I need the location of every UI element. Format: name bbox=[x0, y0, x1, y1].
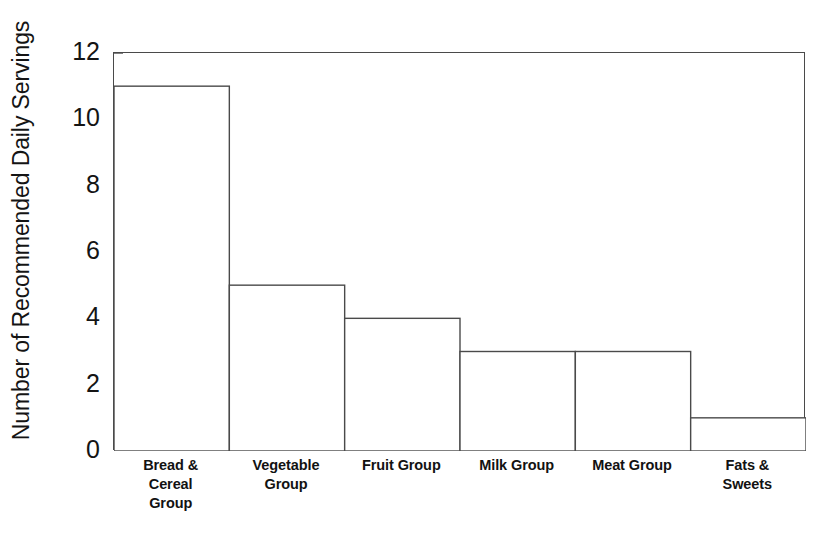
y-axis-title-text: Number of Recommended Daily Servings bbox=[9, 20, 36, 440]
bar bbox=[691, 418, 806, 451]
y-tick-label: 8 bbox=[48, 172, 100, 197]
x-tick-label-line: Cereal bbox=[115, 475, 226, 494]
bar bbox=[345, 318, 460, 451]
x-axis-tick-labels: Bread &CerealGroupVegetableGroupFruit Gr… bbox=[113, 456, 805, 541]
plot-area bbox=[113, 52, 805, 450]
x-tick-label: Fruit Group bbox=[344, 456, 459, 541]
bar-chart: Number of Recommended Daily Servings 024… bbox=[0, 0, 822, 541]
y-tick-label: 6 bbox=[48, 238, 100, 263]
y-tick-label: 10 bbox=[48, 105, 100, 130]
y-tick-label: 4 bbox=[48, 304, 100, 329]
y-axis-tick-labels: 024681012 bbox=[44, 0, 100, 541]
x-tick-label: Fats &Sweets bbox=[690, 456, 805, 541]
x-tick-label-line: Vegetable bbox=[230, 456, 341, 475]
x-tick-label-line: Meat Group bbox=[576, 456, 687, 475]
x-tick-label-line: Group bbox=[115, 494, 226, 513]
x-tick-label: Milk Group bbox=[459, 456, 574, 541]
bar bbox=[114, 86, 229, 451]
y-tick-label: 0 bbox=[48, 437, 100, 462]
x-tick-label-line: Milk Group bbox=[461, 456, 572, 475]
bar bbox=[229, 285, 344, 451]
y-tick-label: 12 bbox=[48, 39, 100, 64]
x-tick-label: Bread &CerealGroup bbox=[113, 456, 228, 541]
x-tick-label: VegetableGroup bbox=[228, 456, 343, 541]
x-tick-label-line: Bread & bbox=[115, 456, 226, 475]
y-axis-title: Number of Recommended Daily Servings bbox=[0, 0, 44, 460]
bar bbox=[575, 352, 690, 452]
bar-series bbox=[114, 53, 806, 451]
x-tick-label-line: Fruit Group bbox=[346, 456, 457, 475]
x-tick-label-line: Sweets bbox=[692, 475, 803, 494]
x-tick-label: Meat Group bbox=[574, 456, 689, 541]
bar bbox=[460, 352, 575, 452]
y-tick-label: 2 bbox=[48, 371, 100, 396]
x-tick-label-line: Group bbox=[230, 475, 341, 494]
x-tick-label-line: Fats & bbox=[692, 456, 803, 475]
